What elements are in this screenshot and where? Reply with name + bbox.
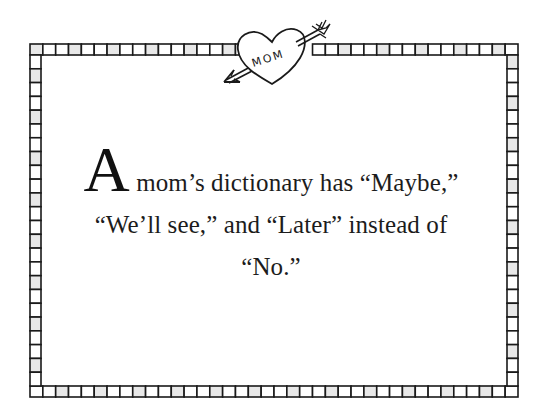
quote-line-2: “We’ll see,” and “Later” instead of xyxy=(60,204,482,246)
drop-cap: A xyxy=(84,134,130,205)
quote-line-1: A mom’s dictionary has “Maybe,” xyxy=(60,150,482,204)
quote-text: A mom’s dictionary has “Maybe,” “We’ll s… xyxy=(60,150,482,288)
quote-line-1-text: mom’s dictionary has “Maybe,” xyxy=(130,169,459,196)
quote-line-3: “No.” xyxy=(60,246,482,288)
